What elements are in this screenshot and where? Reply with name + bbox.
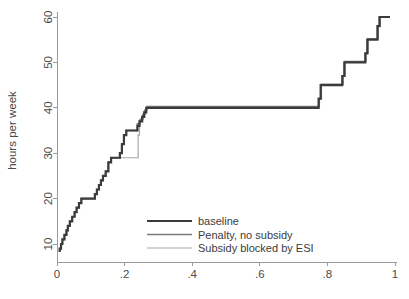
x-tick-label: .8 (323, 268, 333, 280)
y-tick-label: 60 (42, 11, 54, 24)
x-tick-label: .6 (255, 268, 265, 280)
line-chart-plot: 102030405060 0.2.4.6.81 hours per week b… (0, 0, 409, 299)
legend-label-1: baseline (198, 215, 239, 227)
chart-legend: baselinePenalty, no subsidySubsidy block… (147, 215, 314, 254)
legend-label-2: Penalty, no subsidy (198, 229, 293, 241)
chart-container: 102030405060 0.2.4.6.81 hours per week b… (0, 0, 409, 299)
legend-label-3: Subsidy blocked by ESI (198, 242, 314, 254)
x-axis-ticks: 0.2.4.6.81 (54, 262, 398, 280)
y-axis-ticks: 102030405060 (42, 11, 57, 251)
x-tick-label: 0 (54, 268, 60, 280)
x-tick-label: .4 (187, 268, 197, 280)
x-tick-label: .2 (120, 268, 130, 280)
y-tick-label: 40 (42, 101, 54, 114)
y-tick-label: 10 (42, 238, 54, 251)
x-tick-label: 1 (392, 268, 398, 280)
y-axis-title: hours per week (6, 91, 18, 170)
y-tick-label: 50 (42, 56, 54, 69)
y-tick-label: 30 (42, 147, 54, 160)
y-tick-label: 20 (42, 192, 54, 205)
